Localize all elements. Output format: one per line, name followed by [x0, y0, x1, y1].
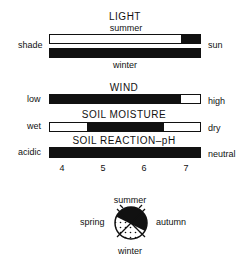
soil-moisture-bar [49, 122, 201, 132]
soil-moisture-fill [87, 123, 164, 131]
light-shade-label: shade [18, 41, 43, 50]
soil-moisture-dry-label: dry [208, 124, 221, 133]
ph-tick-5: 5 [100, 164, 105, 173]
soil-ph-neutral-label: neutral [208, 150, 236, 159]
wind-low-label: low [27, 95, 41, 104]
wind-bar [49, 94, 201, 104]
season-dial-icon [108, 200, 154, 246]
season-autumn-label: autumn [156, 218, 186, 227]
soil-ph-title: SOIL REACTION–pH [72, 136, 175, 146]
wind-title: WIND [110, 83, 139, 93]
soil-ph-bar [49, 147, 201, 158]
ph-tick-4: 4 [59, 164, 64, 173]
ph-tick-7: 7 [183, 164, 188, 173]
light-summer-bar [49, 34, 201, 44]
season-spring-label: spring [80, 218, 105, 227]
ph-tick-6: 6 [141, 164, 146, 173]
light-winter-label: winter [113, 61, 137, 70]
wind-high-label: high [208, 97, 225, 106]
light-sun-label: sun [208, 41, 223, 50]
light-title: LIGHT [109, 12, 141, 22]
soil-ph-acidic-label: acidic [18, 148, 41, 157]
light-winter-bar [49, 48, 201, 58]
season-winter-label: winter [118, 247, 142, 256]
light-summer-fill [181, 35, 200, 43]
soil-moisture-wet-label: wet [27, 122, 41, 131]
light-summer-label: summer [110, 24, 143, 33]
soil-moisture-title: SOIL MOISTURE [82, 110, 166, 120]
wind-fill [50, 95, 181, 103]
